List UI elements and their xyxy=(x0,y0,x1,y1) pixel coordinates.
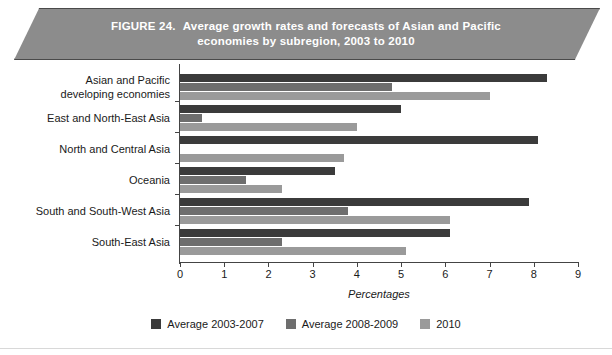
y-axis-tick xyxy=(175,101,180,102)
x-axis-tick xyxy=(490,262,491,267)
y-axis-label: Asian and Pacificdeveloping economies xyxy=(0,74,170,101)
legend-label: 2010 xyxy=(436,318,460,330)
x-axis-tick xyxy=(357,262,358,267)
y-axis-label-line: Oceania xyxy=(0,174,170,188)
footer-divider xyxy=(0,348,612,349)
banner-parallelogram xyxy=(14,8,600,60)
y-axis-label: North and Central Asia xyxy=(0,143,170,157)
x-axis-tick xyxy=(268,262,269,267)
bar-group xyxy=(180,136,578,163)
x-axis-tick-label: 0 xyxy=(165,268,195,280)
bar xyxy=(180,123,357,131)
x-axis-tick-label: 4 xyxy=(342,268,372,280)
bar xyxy=(180,114,202,122)
y-axis-tick xyxy=(175,194,180,195)
y-axis-category-labels: Asian and Pacificdeveloping economiesEas… xyxy=(0,66,178,262)
bar xyxy=(180,229,450,237)
x-axis-tick xyxy=(534,262,535,267)
x-axis-tick xyxy=(224,262,225,267)
legend-swatch xyxy=(420,319,430,329)
legend-label: Average 2008-2009 xyxy=(302,318,398,330)
y-axis-label: South-East Asia xyxy=(0,236,170,250)
bar xyxy=(180,198,529,206)
legend-item: 2010 xyxy=(420,318,460,330)
y-axis-tick xyxy=(175,163,180,164)
bar xyxy=(180,216,450,224)
bar xyxy=(180,167,335,175)
x-axis-tick xyxy=(578,262,579,267)
x-axis-tick-label: 5 xyxy=(386,268,416,280)
x-axis-tick-label: 7 xyxy=(475,268,505,280)
x-axis-tick-label: 6 xyxy=(430,268,460,280)
bar xyxy=(180,247,406,255)
y-axis-label: Oceania xyxy=(0,174,170,188)
bar xyxy=(180,154,344,162)
bar xyxy=(180,185,282,193)
legend-label: Average 2003-2007 xyxy=(167,318,263,330)
bar xyxy=(180,74,547,82)
chart-legend: Average 2003-2007Average 2008-20092010 xyxy=(0,318,612,330)
figure-banner: FIGURE 24.Average growth rates and forec… xyxy=(0,8,612,60)
bar-group xyxy=(180,105,578,132)
bar xyxy=(180,105,401,113)
bar xyxy=(180,176,246,184)
y-axis-label-line: South and South-West Asia xyxy=(0,205,170,219)
legend-item: Average 2008-2009 xyxy=(286,318,398,330)
x-axis-tick xyxy=(401,262,402,267)
x-axis-tick-label: 9 xyxy=(563,268,593,280)
bar-group xyxy=(180,198,578,225)
bar xyxy=(180,136,538,144)
bar-chart: Asian and Pacificdeveloping economiesEas… xyxy=(0,66,612,306)
legend-item: Average 2003-2007 xyxy=(151,318,263,330)
y-axis-label-line: South-East Asia xyxy=(0,236,170,250)
y-axis-tick xyxy=(175,225,180,226)
bar xyxy=(180,207,348,215)
x-axis-title: Percentages xyxy=(180,288,578,300)
y-axis-label-line: East and North-East Asia xyxy=(0,112,170,126)
x-axis-tick-label: 1 xyxy=(209,268,239,280)
bar-group xyxy=(180,74,578,101)
x-axis-tick xyxy=(313,262,314,267)
bar xyxy=(180,238,282,246)
y-axis-label: East and North-East Asia xyxy=(0,112,170,126)
y-axis-tick xyxy=(175,132,180,133)
y-axis-label-line: Asian and Pacific xyxy=(0,74,170,88)
bar xyxy=(180,83,392,91)
x-axis-tick xyxy=(445,262,446,267)
x-axis-tick-label: 3 xyxy=(298,268,328,280)
y-axis-label-line: developing economies xyxy=(0,88,170,102)
plot-area xyxy=(180,66,578,262)
bar-group xyxy=(180,167,578,194)
x-axis-tick-label: 8 xyxy=(519,268,549,280)
y-axis-label-line: North and Central Asia xyxy=(0,143,170,157)
bar xyxy=(180,92,490,100)
x-axis-tick-label: 2 xyxy=(253,268,283,280)
y-axis-label: South and South-West Asia xyxy=(0,205,170,219)
legend-swatch xyxy=(286,319,296,329)
bar-group xyxy=(180,229,578,256)
legend-swatch xyxy=(151,319,161,329)
x-axis-tick xyxy=(180,262,181,267)
